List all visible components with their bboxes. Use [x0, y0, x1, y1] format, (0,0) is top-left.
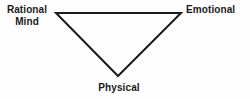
vertex-label-emotional-line1: Emotional — [186, 4, 235, 15]
vertex-label-rational-mind: Rational Mind — [0, 4, 54, 28]
vertex-label-emotional: Emotional — [186, 4, 250, 16]
vertex-label-physical-line1: Physical — [98, 82, 139, 93]
vertex-label-physical: Physical — [88, 82, 150, 94]
triangle-outline — [56, 13, 181, 76]
vertex-label-rational-mind-line2: Mind — [0, 16, 54, 28]
vertex-label-rational-mind-line1: Rational — [0, 4, 54, 16]
triangle-diagram: Rational Mind Emotional Physical — [0, 0, 250, 99]
